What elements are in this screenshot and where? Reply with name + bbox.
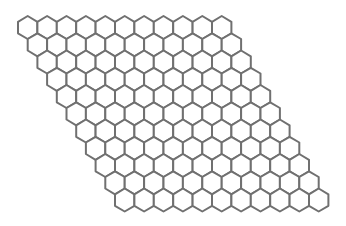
hex-cell[interactable] xyxy=(290,189,309,212)
hex-cell[interactable] xyxy=(193,189,212,212)
hex-cell[interactable] xyxy=(231,189,250,212)
hex-board xyxy=(0,0,346,226)
hex-cell[interactable] xyxy=(212,189,231,212)
hex-cell[interactable] xyxy=(270,189,289,212)
hex-cell[interactable] xyxy=(115,189,134,212)
hex-cell[interactable] xyxy=(309,189,328,212)
hex-cell[interactable] xyxy=(134,189,153,212)
hex-cell[interactable] xyxy=(173,189,192,212)
hex-cell[interactable] xyxy=(251,189,270,212)
hex-cell[interactable] xyxy=(154,189,173,212)
